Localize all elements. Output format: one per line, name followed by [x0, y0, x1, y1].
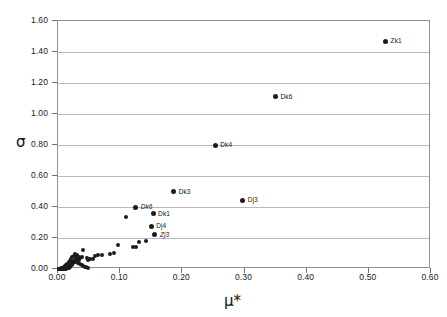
data-point-label: Zj3	[160, 231, 169, 238]
data-point-label: Dk6	[281, 93, 293, 100]
data-point	[100, 253, 104, 257]
y-tick-label: 1.60	[0, 15, 48, 25]
data-point-label: Dk3	[179, 188, 191, 195]
data-point	[383, 39, 388, 44]
data-point	[108, 252, 112, 256]
y-tick-label: 0.60	[0, 170, 48, 180]
gridline	[58, 207, 429, 208]
y-tick-label: 1.00	[0, 108, 48, 118]
data-point	[240, 198, 245, 203]
data-point-label: Dj3	[248, 196, 258, 203]
x-tick-label: 0.40	[283, 272, 329, 282]
x-tick-label: 0.00	[34, 272, 80, 282]
x-tick-label: 0.50	[345, 272, 391, 282]
data-point	[116, 243, 120, 247]
gridline	[58, 114, 429, 115]
data-point	[152, 232, 157, 237]
gridline	[58, 83, 429, 84]
data-point-label: Dj4	[156, 222, 166, 229]
data-point	[133, 205, 138, 210]
plot-area: Zk1Dk6Dk4Dk3Dj3Dk6Dk1Dj4Zj3	[57, 20, 430, 268]
data-point	[131, 245, 135, 249]
data-point-label: Dk6	[141, 203, 153, 210]
data-point	[149, 224, 154, 229]
x-tick-label: 0.20	[158, 272, 204, 282]
data-point	[144, 239, 148, 243]
scatter-chart: σ μ* 0.000.200.400.600.801.001.201.401.6…	[0, 0, 447, 317]
data-point	[124, 215, 128, 219]
data-point	[137, 240, 141, 244]
y-tick-label: 1.40	[0, 46, 48, 56]
gridline	[58, 145, 429, 146]
data-point	[85, 256, 89, 260]
data-point	[86, 266, 90, 270]
data-point-label: Dk4	[220, 141, 232, 148]
x-tick-label: 0.30	[221, 272, 267, 282]
data-point	[112, 251, 116, 255]
x-tick-label: 0.10	[96, 272, 142, 282]
x-tick-label: 0.60	[407, 272, 447, 282]
y-tick-label: 0.80	[0, 139, 48, 149]
data-point	[91, 257, 95, 261]
x-axis-label: μ*	[224, 292, 241, 310]
gridline	[58, 238, 429, 239]
data-point-label: Zk1	[391, 37, 402, 44]
data-point	[273, 94, 278, 99]
data-point	[171, 189, 176, 194]
data-point	[213, 143, 218, 148]
data-point-label: Dk1	[158, 210, 170, 217]
y-tick-label: 0.40	[0, 201, 48, 211]
gridline	[58, 52, 429, 53]
y-tick-label: 1.20	[0, 77, 48, 87]
data-point	[81, 248, 85, 252]
data-point	[151, 211, 156, 216]
y-tick-label: 0.20	[0, 232, 48, 242]
gridline	[58, 176, 429, 177]
